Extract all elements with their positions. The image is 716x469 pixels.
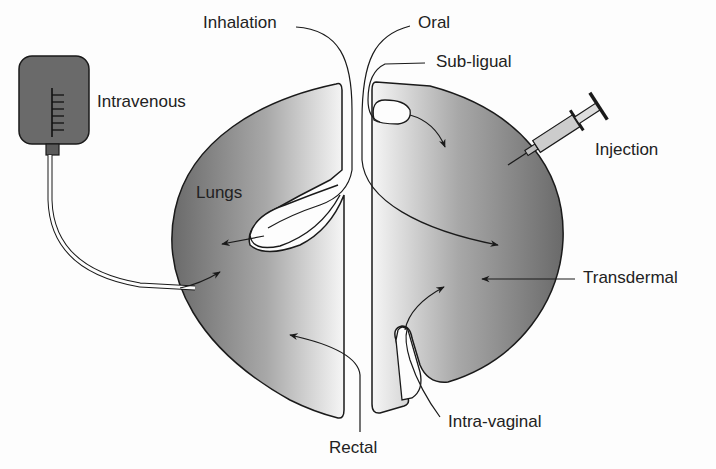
label-rectal: Rectal xyxy=(329,438,377,458)
label-intravaginal: Intra-vaginal xyxy=(448,412,542,432)
label-transdermal: Transdermal xyxy=(583,268,678,288)
label-intravenous: Intravenous xyxy=(97,92,186,112)
label-sublingual: Sub-ligual xyxy=(436,52,512,72)
body-left-shape xyxy=(172,84,344,419)
iv-bag-icon xyxy=(19,56,89,155)
label-oral: Oral xyxy=(418,13,450,33)
label-inhalation: Inhalation xyxy=(203,13,277,33)
label-lungs: Lungs xyxy=(196,183,242,203)
label-injection: Injection xyxy=(595,140,658,160)
diagram-canvas xyxy=(0,0,716,469)
drug-routes-diagram: Inhalation Oral Sub-ligual Intravenous I… xyxy=(0,0,716,469)
mouth-pocket xyxy=(373,100,410,124)
